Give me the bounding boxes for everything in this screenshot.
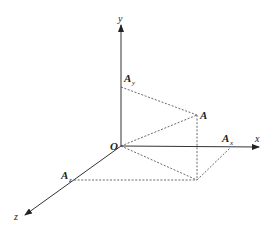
point-az-label: A z: [60, 169, 72, 184]
coordinate-diagram: y x z O A A y A x A z: [0, 0, 273, 231]
point-ay-label: A y: [123, 72, 136, 87]
svg-text:A: A: [221, 132, 229, 144]
origin-label: O: [110, 140, 118, 152]
foot-to-ax-line: [197, 148, 230, 180]
y-axis-label: y: [117, 13, 123, 24]
svg-text:A: A: [123, 72, 131, 84]
ay-to-a-line: [121, 87, 197, 115]
z-axis-label: z: [13, 211, 18, 222]
o-to-foot-line: [121, 146, 197, 180]
x-axis-label: x: [254, 133, 260, 144]
svg-text:x: x: [229, 139, 234, 147]
svg-text:z: z: [68, 176, 72, 184]
z-axis: [25, 146, 121, 215]
point-ax-label: A x: [221, 132, 234, 147]
point-a-label: A: [199, 109, 207, 121]
x-axis: [121, 146, 259, 147]
o-to-a-line: [121, 115, 197, 146]
svg-text:A: A: [60, 169, 68, 181]
svg-text:y: y: [131, 79, 136, 87]
